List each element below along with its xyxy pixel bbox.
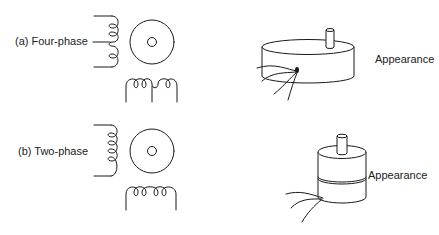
stepper-motor-diagram: (a) Four-phase Appearance (b) Two-phase … xyxy=(0,0,439,235)
rotor-a-icon xyxy=(130,20,174,64)
rotor-b-icon xyxy=(130,129,174,173)
motor-appearance-b-icon xyxy=(286,134,366,222)
motor-appearance-a-icon xyxy=(257,29,354,101)
vertical-coil-b-icon xyxy=(94,125,117,176)
panel-b-appearance-label: Appearance xyxy=(368,170,427,181)
horizontal-coil-a-icon xyxy=(126,79,177,102)
panel-a-appearance-label: Appearance xyxy=(375,54,434,65)
panel-a-label: (a) Four-phase xyxy=(15,36,88,47)
panel-b-schematic xyxy=(94,125,176,210)
vertical-coil-a-icon xyxy=(93,16,118,67)
horizontal-coil-b-icon xyxy=(126,187,176,210)
panel-b-label: (b) Two-phase xyxy=(18,146,88,157)
panel-a-schematic xyxy=(93,16,177,102)
